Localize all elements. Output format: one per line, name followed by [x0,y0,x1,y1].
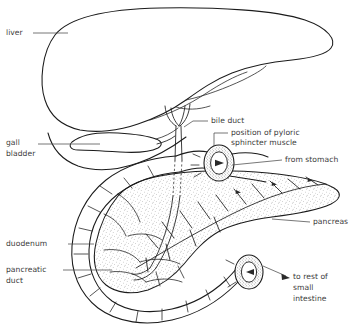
gall-bladder-neck [156,128,178,139]
small-intestine-outlet-ring [226,255,263,289]
label-to-rest-line1: to rest of [293,272,328,281]
liver-lobe-edge [186,66,266,100]
liver-lower-margin [48,133,186,170]
stomach-tube-upper [232,153,268,157]
outlet-hatch-a [226,260,234,264]
leader-pancreas [272,219,310,222]
leader-from-stomach [232,160,282,165]
label-to-rest-line3: intestine [293,294,327,303]
label-gall-bladder-line1: gall [6,138,20,147]
common-bile-duct-right [181,126,182,160]
leader-to-rest-arrow [281,274,290,280]
label-pyloric-line2: sphincter muscle [231,138,297,147]
label-duodenum: duodenum [6,239,47,248]
gall-bladder-outline [70,133,161,153]
leader-pyloric [214,133,228,146]
label-gall-bladder-line2: bladder [6,149,35,158]
label-pancreatic-duct-line1: pancreatic [6,265,47,274]
label-liver: liver [6,28,23,37]
anatomy-diagram: liver gall bladder bile duct position of… [0,0,352,331]
gall-bladder-group [48,128,186,170]
liver-group [42,8,333,132]
label-pyloric-line1: position of pyloric [231,128,300,137]
label-pancreatic-duct-line2: duct [6,276,23,285]
common-bile-duct-left [175,126,176,160]
label-to-rest-line2: small [293,283,313,292]
liver-outline [42,8,333,132]
hepatic-duct-left [165,106,176,126]
label-from-stomach: from stomach [285,155,338,164]
label-pancreas: pancreas [313,217,348,226]
leader-bile-duct [184,121,208,127]
cystic-duct [157,136,175,144]
label-bile-duct: bile duct [211,116,244,125]
